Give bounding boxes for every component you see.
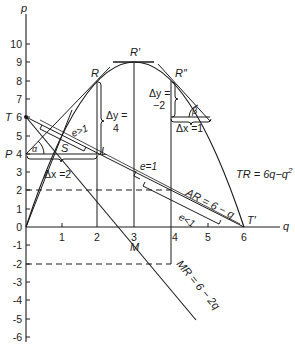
elasticity-labels: e>1 e=1 e<1 — [70, 122, 198, 229]
x-tick-4: 4 — [172, 231, 178, 243]
dx-right: Δx =1 — [176, 122, 203, 134]
label-r: R — [91, 67, 99, 79]
point-t-marker — [24, 115, 28, 119]
label-r-prime: R′ — [130, 46, 141, 58]
y-tick-neg5: -5 — [13, 313, 22, 325]
y-tick-9: 9 — [16, 56, 22, 68]
label-alpha: α — [32, 144, 38, 154]
label-tr-sup: 2 — [287, 166, 293, 175]
y-tick-0: 0 — [16, 221, 22, 233]
x-tick-2: 2 — [94, 231, 100, 243]
x-tick-1: 1 — [59, 231, 65, 243]
y-tick-neg2: -2 — [13, 258, 22, 270]
y-tick-10: 10 — [10, 38, 22, 50]
label-r-double-prime: R″ — [175, 67, 188, 79]
curve-labels: TR = 6q−q2 AR = 6 − q MR = 6 − 2q — [174, 166, 293, 312]
label-mr: MR = 6 − 2q — [174, 258, 223, 313]
y-tick-3: 3 — [16, 166, 22, 178]
y-tick-2: 2 — [16, 184, 22, 196]
y-tick-7: 7 — [16, 93, 22, 105]
label-p: P — [5, 148, 13, 160]
alpha-arc — [38, 141, 44, 154]
label-s: S — [61, 142, 69, 154]
y-tick-neg1: -1 — [13, 239, 22, 251]
dy-left-line1: Δy = — [106, 109, 127, 121]
dx-left: Δx =2 — [44, 168, 71, 180]
y-tick-8: 8 — [16, 75, 22, 87]
y-tick-4: 4 — [16, 148, 22, 160]
brace-dx-left — [27, 156, 97, 162]
x-tick-6: 6 — [241, 231, 247, 243]
x-tick-5: 5 — [205, 231, 211, 243]
label-e-eq: e=1 — [140, 161, 157, 172]
label-m: M — [130, 241, 140, 253]
y-tick-5: 5 — [16, 130, 22, 142]
label-t: T — [5, 111, 13, 123]
label-tr: TR = 6q−q2 — [236, 166, 293, 180]
dy-left-line2: 4 — [113, 122, 119, 134]
y-tick-neg3: -3 — [13, 276, 22, 288]
x-tick-labels: 1 2 3 4 5 6 — [59, 231, 247, 243]
y-axis-label: p — [20, 2, 27, 14]
label-e-gt: e>1 — [70, 122, 90, 139]
y-tick-1: 1 — [16, 203, 22, 215]
revenue-elasticity-diagram: 10 9 8 7 6 5 4 3 2 1 0 -1 -2 -3 -4 -5 -6… — [0, 0, 295, 351]
point-labels: R R′ R″ T T′ P L S M α β — [5, 46, 257, 253]
y-tick-neg6: -6 — [13, 331, 22, 343]
label-t-prime: T′ — [247, 214, 257, 226]
label-tr-text: TR = 6q−q — [236, 168, 289, 180]
label-l: L — [101, 145, 107, 157]
label-beta: β — [191, 106, 197, 116]
x-axis-label: q — [283, 220, 290, 232]
dy-right-line2: −2 — [153, 99, 165, 111]
y-tick-neg4: -4 — [13, 294, 22, 306]
dy-right-line1: Δy = — [149, 87, 170, 99]
y-tick-labels: 10 9 8 7 6 5 4 3 2 1 0 -1 -2 -3 -4 -5 -6 — [10, 38, 22, 343]
y-tick-6: 6 — [16, 111, 22, 123]
